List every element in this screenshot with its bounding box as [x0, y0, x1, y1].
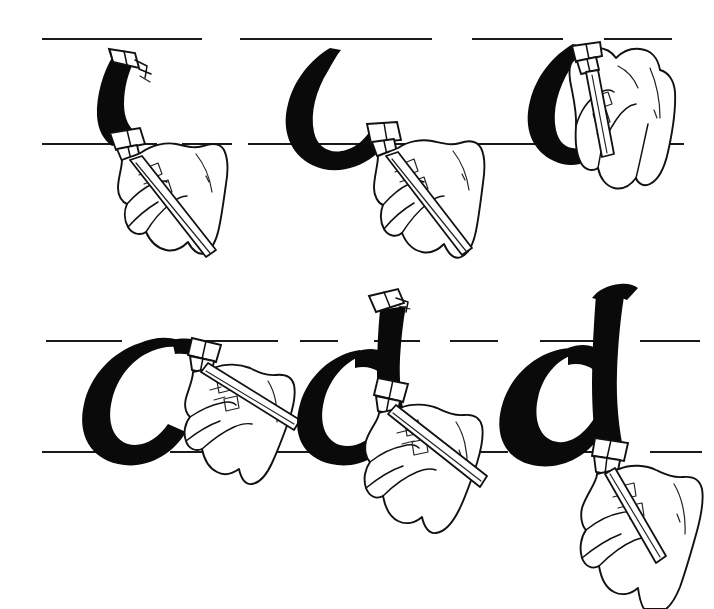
- instruction-illustration: [0, 0, 714, 609]
- calligraphy-plate: Broad-edge pen construction of lowercase…: [0, 0, 714, 609]
